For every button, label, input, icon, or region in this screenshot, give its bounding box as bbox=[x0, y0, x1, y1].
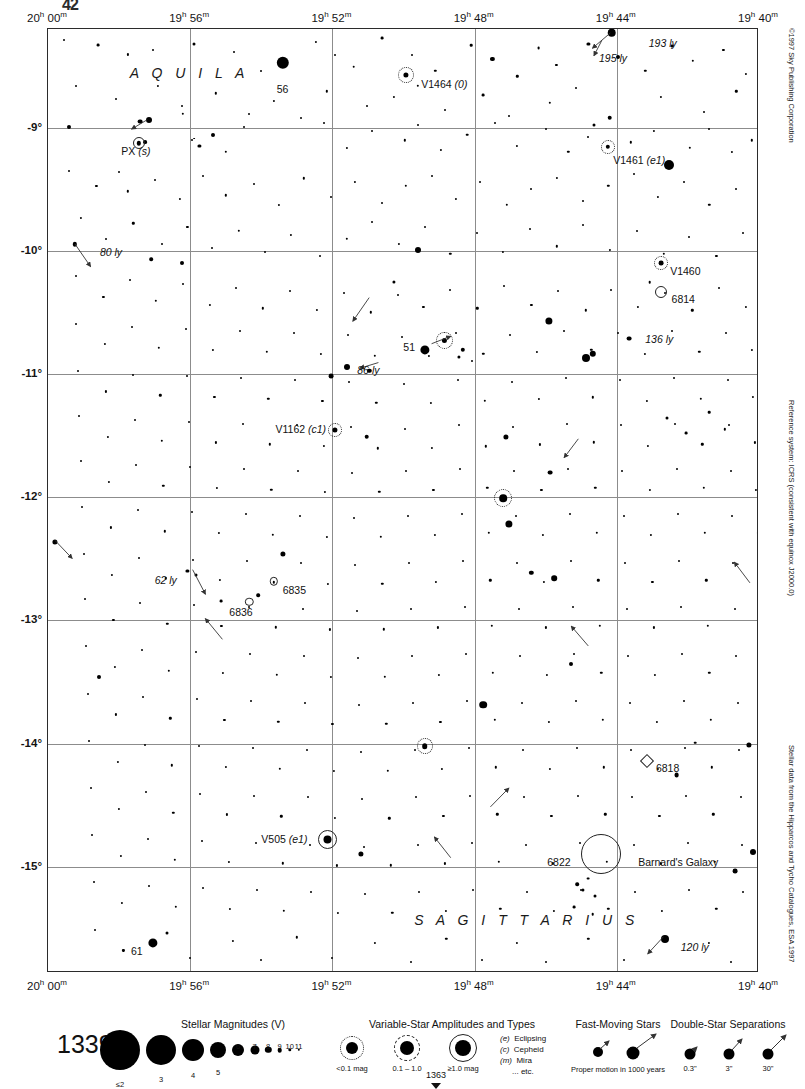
star-marker bbox=[631, 796, 633, 798]
star-marker bbox=[415, 796, 417, 798]
variable-star-V505[interactable] bbox=[319, 831, 336, 848]
variable-star-V1162[interactable] bbox=[329, 424, 341, 436]
star-marker bbox=[698, 351, 700, 353]
star-marker bbox=[455, 198, 457, 200]
star-marker bbox=[88, 740, 90, 742]
star-marker bbox=[542, 534, 544, 536]
variable-star-vA[interactable] bbox=[495, 490, 511, 506]
star-marker bbox=[186, 569, 189, 572]
star-marker bbox=[630, 749, 632, 751]
star-marker bbox=[661, 910, 663, 912]
star-marker bbox=[80, 217, 82, 219]
star-marker bbox=[374, 942, 376, 944]
star-marker bbox=[644, 353, 646, 355]
star-marker bbox=[135, 464, 137, 466]
star-marker bbox=[708, 203, 710, 205]
star-marker bbox=[664, 160, 674, 170]
star-marker bbox=[722, 49, 724, 51]
star-marker bbox=[382, 628, 384, 630]
star-marker bbox=[192, 43, 195, 46]
star-marker bbox=[97, 675, 101, 679]
star-marker bbox=[745, 73, 747, 75]
sky-map[interactable]: A Q U I L AS A G I T T A R I U S193 ly19… bbox=[47, 28, 758, 972]
object-label: 6835 bbox=[283, 584, 306, 596]
grid-line-ra bbox=[190, 29, 191, 971]
star-marker bbox=[381, 202, 383, 204]
star-marker bbox=[499, 908, 501, 910]
star-marker bbox=[657, 196, 659, 198]
star-marker bbox=[216, 487, 218, 489]
ra-tick-label: 19h 44m bbox=[596, 10, 636, 24]
ra-tick-label: 19h 48m bbox=[454, 978, 494, 992]
star-marker bbox=[219, 579, 221, 581]
star-marker bbox=[750, 849, 756, 855]
star-marker bbox=[496, 813, 498, 815]
deep-sky-object-6822[interactable] bbox=[581, 834, 621, 874]
star-marker bbox=[681, 653, 683, 655]
star-marker bbox=[661, 935, 669, 943]
star-marker bbox=[331, 957, 333, 959]
star-marker bbox=[330, 196, 332, 198]
star-marker bbox=[393, 96, 395, 98]
star-marker bbox=[751, 139, 753, 141]
star-marker bbox=[735, 90, 737, 92]
star-marker bbox=[189, 957, 191, 959]
star-marker bbox=[730, 961, 732, 963]
star-marker bbox=[683, 181, 685, 183]
star-marker bbox=[154, 179, 156, 181]
star-marker bbox=[348, 381, 350, 383]
star-marker bbox=[315, 41, 317, 43]
star-marker bbox=[279, 768, 281, 770]
variable-star-V1460[interactable] bbox=[655, 257, 667, 269]
star-marker bbox=[428, 355, 430, 357]
star-marker bbox=[198, 144, 201, 147]
doubles-legend-title: Double-Star Separations bbox=[671, 1018, 786, 1030]
star-marker bbox=[587, 877, 590, 880]
deep-sky-object-6835[interactable] bbox=[270, 577, 278, 585]
variable-star-V1461[interactable] bbox=[602, 141, 614, 153]
star-marker bbox=[121, 902, 123, 904]
star-marker bbox=[149, 258, 153, 262]
star-marker bbox=[149, 938, 158, 947]
star-marker bbox=[405, 470, 407, 472]
star-marker bbox=[144, 744, 146, 746]
star-marker bbox=[637, 305, 639, 307]
star-marker bbox=[633, 844, 635, 846]
object-label: V1162 (c1) bbox=[276, 423, 327, 435]
proper-motion-arrow bbox=[571, 626, 588, 646]
star-marker bbox=[563, 330, 565, 332]
grid-line-dec bbox=[48, 251, 757, 252]
star-marker bbox=[131, 326, 133, 328]
star-marker bbox=[466, 133, 469, 136]
star-marker bbox=[608, 28, 617, 37]
star-marker bbox=[567, 468, 569, 470]
variable-star-51v[interactable] bbox=[437, 333, 452, 348]
star-marker bbox=[647, 445, 649, 447]
deep-sky-object-6814[interactable] bbox=[655, 286, 667, 298]
variable-star-vB[interactable] bbox=[418, 739, 432, 753]
star-marker bbox=[449, 289, 451, 291]
star-marker bbox=[407, 515, 409, 517]
star-marker bbox=[375, 402, 377, 404]
star-marker bbox=[508, 115, 510, 117]
star-marker bbox=[299, 515, 301, 517]
star-marker bbox=[576, 747, 578, 749]
star-marker bbox=[111, 574, 113, 576]
star-marker bbox=[435, 581, 437, 583]
star-marker bbox=[737, 702, 739, 704]
deep-sky-object-6818[interactable] bbox=[640, 754, 654, 768]
star-marker bbox=[495, 766, 497, 768]
object-label: 6814 bbox=[672, 293, 695, 305]
star-marker bbox=[211, 133, 215, 137]
star-marker bbox=[742, 891, 744, 893]
star-marker bbox=[704, 532, 706, 534]
star-marker bbox=[745, 305, 747, 307]
star-marker bbox=[276, 673, 278, 675]
star-marker bbox=[398, 243, 400, 245]
star-marker bbox=[324, 490, 326, 492]
variable-star-core bbox=[658, 261, 663, 266]
star-marker bbox=[257, 594, 261, 598]
variable-star-V1464[interactable] bbox=[399, 68, 413, 82]
star-marker bbox=[249, 653, 251, 655]
